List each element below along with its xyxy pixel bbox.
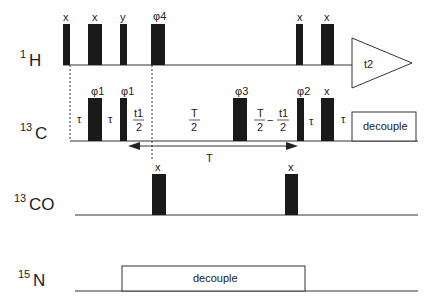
svg-text:T: T <box>206 152 213 164</box>
h-pulse-4 <box>151 24 165 65</box>
h-pulses: x x y φ4 x x <box>63 10 334 65</box>
c-pulse-4 <box>297 98 304 141</box>
svg-text:x: x <box>288 161 294 173</box>
svg-text:13: 13 <box>20 121 32 133</box>
svg-text:t1: t1 <box>279 107 288 119</box>
c-pulse-2 <box>120 98 127 141</box>
co-pulse-2 <box>285 174 298 215</box>
svg-text:C: C <box>35 124 47 143</box>
svg-text:H: H <box>29 51 41 70</box>
svg-text:φ1: φ1 <box>121 85 134 97</box>
svg-text:−: − <box>267 114 273 126</box>
h-pulse-5 <box>296 24 303 65</box>
svg-text:t2: t2 <box>364 58 373 70</box>
c-pulse-1 <box>88 98 102 141</box>
h-pulse-3 <box>120 24 127 65</box>
svg-text:x: x <box>155 161 161 173</box>
t-period-arrow: T <box>128 142 298 164</box>
svg-text:t1: t1 <box>134 107 143 119</box>
svg-text:2: 2 <box>257 121 263 133</box>
svg-text:N: N <box>33 271 45 290</box>
pulse-sequence-diagram: 1 H 13 C 13 CO 15 N x x y φ4 x x t2 <box>0 0 433 308</box>
svg-text:φ4: φ4 <box>153 10 166 22</box>
svg-text:τ: τ <box>77 113 82 125</box>
n-decouple-block: decouple <box>122 266 305 291</box>
svg-text:y: y <box>120 11 126 23</box>
svg-text:x: x <box>63 11 69 23</box>
h-pulse-1 <box>63 24 70 65</box>
c-decouple-block: decouple <box>352 112 416 141</box>
svg-text:CO: CO <box>29 195 55 214</box>
svg-text:decouple: decouple <box>363 120 408 132</box>
svg-text:φ1: φ1 <box>91 85 104 97</box>
c-pulse-3 <box>233 98 247 141</box>
svg-text:T: T <box>257 107 264 119</box>
svg-text:13: 13 <box>14 192 26 204</box>
svg-text:15: 15 <box>18 268 30 280</box>
svg-text:τ: τ <box>309 115 314 127</box>
c-delays: τ τ t1 2 T 2 T 2 − t1 2 τ τ <box>77 107 346 133</box>
svg-text:x: x <box>297 11 303 23</box>
co-pulse-1 <box>152 174 166 215</box>
svg-text:2: 2 <box>136 121 142 133</box>
co-pulses: x x <box>152 161 298 215</box>
label-13co: 13 CO <box>14 192 55 214</box>
h-pulse-6 <box>321 24 334 65</box>
label-13c: 13 C <box>20 121 47 143</box>
label-1h: 1 H <box>20 48 41 70</box>
label-15n: 15 N <box>18 268 45 290</box>
svg-text:1: 1 <box>20 48 26 60</box>
svg-text:x: x <box>324 85 330 97</box>
svg-text:2: 2 <box>191 121 197 133</box>
svg-text:decouple: decouple <box>193 272 238 284</box>
svg-text:φ2: φ2 <box>297 85 310 97</box>
acquisition-fid: t2 <box>352 38 412 88</box>
svg-text:x: x <box>92 11 98 23</box>
svg-text:φ3: φ3 <box>235 85 248 97</box>
svg-text:x: x <box>324 11 330 23</box>
c-pulse-5 <box>321 98 334 141</box>
svg-text:τ: τ <box>341 113 346 125</box>
svg-text:2: 2 <box>280 121 286 133</box>
h-pulse-2 <box>88 24 102 65</box>
c-pulses: φ1 φ1 φ3 φ2 x <box>88 85 334 141</box>
svg-text:τ: τ <box>108 113 113 125</box>
svg-text:T: T <box>191 107 198 119</box>
